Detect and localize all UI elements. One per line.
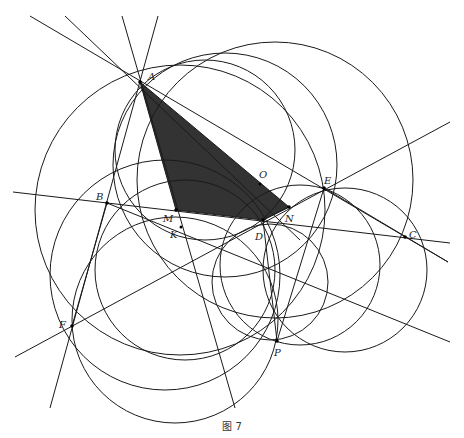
label-F: F <box>58 319 67 330</box>
label-D: D <box>254 231 263 242</box>
point-M <box>174 208 178 212</box>
label-O: O <box>259 169 267 180</box>
point-N <box>287 205 291 209</box>
point-O <box>259 183 262 186</box>
point-E <box>322 186 326 190</box>
line-BF <box>72 203 107 326</box>
label-C: C <box>409 229 417 240</box>
shaded-quadrilateral-AMDN <box>140 82 289 220</box>
line-FE <box>15 122 450 357</box>
geometry-figure: A B C D E F P M N O K <box>0 0 464 438</box>
circles <box>35 42 427 423</box>
point-F <box>70 324 74 328</box>
point-B <box>105 201 109 205</box>
circle-FP-lower <box>72 217 278 423</box>
point-P <box>275 339 279 343</box>
label-K: K <box>169 229 178 240</box>
point-A <box>138 80 142 84</box>
point-C <box>403 235 407 239</box>
label-E: E <box>323 175 332 186</box>
label-P: P <box>273 347 281 358</box>
figure-caption: 图 7 <box>0 418 464 433</box>
label-N: N <box>284 213 295 224</box>
point-K <box>180 226 183 229</box>
line-BP <box>107 203 450 342</box>
label-A: A <box>147 71 155 82</box>
point-D <box>261 218 265 222</box>
label-B: B <box>95 191 103 202</box>
label-M: M <box>162 213 174 224</box>
